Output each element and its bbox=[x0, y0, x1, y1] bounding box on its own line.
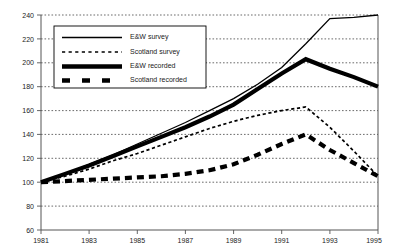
legend-label: Scotland recorded bbox=[130, 76, 187, 83]
x-tick-label: 1993 bbox=[322, 237, 338, 244]
line-chart: 240 220 200 180 160 140 120 100 80 60 19… bbox=[0, 0, 398, 252]
x-tick-label: 1995 bbox=[366, 237, 382, 244]
y-tick-label: 200 bbox=[22, 59, 34, 66]
x-tick-label: 1985 bbox=[130, 237, 146, 244]
y-tick-label: 240 bbox=[22, 12, 34, 19]
x-tick-label: 1989 bbox=[226, 237, 242, 244]
x-tick-label: 1983 bbox=[81, 237, 97, 244]
x-tick-label: 1991 bbox=[274, 237, 290, 244]
x-tick-label: 1981 bbox=[33, 237, 49, 244]
chart-canvas: 240 220 200 180 160 140 120 100 80 60 19… bbox=[0, 0, 398, 252]
x-tickmarks bbox=[41, 230, 378, 234]
y-tick-label: 180 bbox=[22, 83, 34, 90]
y-axis-labels: 240 220 200 180 160 140 120 100 80 60 bbox=[22, 12, 34, 234]
x-tick-label: 1987 bbox=[178, 237, 194, 244]
x-axis-labels: 1981 1983 1985 1987 1989 1991 1993 1995 bbox=[33, 237, 382, 244]
y-tick-label: 160 bbox=[22, 107, 34, 114]
y-tick-label: 60 bbox=[26, 227, 34, 234]
legend-label: E&W recorded bbox=[130, 62, 176, 69]
y-tickmarks bbox=[37, 15, 41, 230]
y-tick-label: 220 bbox=[22, 36, 34, 43]
y-tick-label: 80 bbox=[26, 203, 34, 210]
y-tick-label: 120 bbox=[22, 155, 34, 162]
y-tick-label: 140 bbox=[22, 131, 34, 138]
y-tick-label: 100 bbox=[22, 179, 34, 186]
legend-label: Scotland survey bbox=[130, 48, 180, 56]
legend-label: E&W survey bbox=[130, 33, 169, 41]
legend: E&W survey Scotland survey E&W recorded … bbox=[54, 26, 206, 88]
